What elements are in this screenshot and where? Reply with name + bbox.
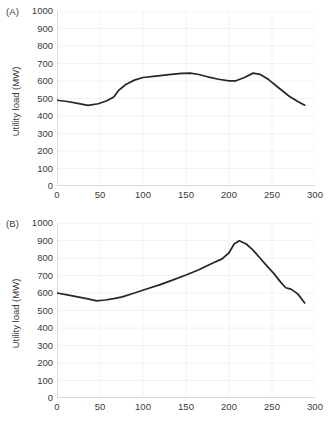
chart-panel-b: (B) Utility load (MW) 100090080070060050… — [0, 212, 333, 424]
gridlines-a — [57, 11, 315, 186]
y-tick-label: 400 — [37, 111, 53, 121]
y-tick-label: 200 — [37, 358, 53, 368]
data-line-b — [57, 241, 305, 303]
y-tick-label: 100 — [37, 376, 53, 386]
data-line-a — [57, 73, 305, 105]
y-axis-tick-labels-b: 10009008007006005004003002001000 — [18, 223, 53, 398]
x-tick-label: 150 — [178, 402, 194, 412]
x-tick-label: 100 — [135, 402, 151, 412]
figure-root: (A) Utility load (MW) 100090080070060050… — [0, 0, 333, 425]
plot-area-b — [57, 223, 315, 398]
x-tick-label: 0 — [54, 402, 59, 412]
plot-area-a — [57, 11, 315, 186]
plot-svg-a — [57, 11, 315, 186]
x-axis-tick-labels-a: 050100150200250300 — [57, 190, 315, 206]
x-tick-label: 50 — [95, 402, 106, 412]
plot-svg-b — [57, 223, 315, 398]
chart-panel-a: (A) Utility load (MW) 100090080070060050… — [0, 0, 333, 212]
y-tick-label: 600 — [37, 76, 53, 86]
x-tick-label: 200 — [221, 190, 237, 200]
y-tick-label: 300 — [37, 341, 53, 351]
x-tick-label: 250 — [264, 402, 280, 412]
y-tick-label: 700 — [37, 59, 53, 69]
y-tick-label: 900 — [37, 24, 53, 34]
x-tick-label: 300 — [307, 402, 323, 412]
y-tick-label: 0 — [48, 181, 53, 191]
x-tick-label: 200 — [221, 402, 237, 412]
x-tick-label: 0 — [54, 190, 59, 200]
x-tick-label: 150 — [178, 190, 194, 200]
x-axis-tick-labels-b: 050100150200250300 — [57, 402, 315, 418]
y-tick-label: 300 — [37, 129, 53, 139]
x-tick-label: 100 — [135, 190, 151, 200]
x-tick-label: 250 — [264, 190, 280, 200]
y-tick-label: 800 — [37, 253, 53, 263]
y-tick-label: 500 — [37, 306, 53, 316]
y-axis-tick-labels-a: 10009008007006005004003002001000 — [18, 11, 53, 186]
y-tick-label: 0 — [48, 393, 53, 403]
y-tick-label: 400 — [37, 323, 53, 333]
x-tick-label: 50 — [95, 190, 106, 200]
gridlines-b — [57, 223, 315, 398]
y-tick-label: 500 — [37, 94, 53, 104]
y-tick-label: 200 — [37, 146, 53, 156]
y-tick-label: 600 — [37, 288, 53, 298]
y-tick-label: 900 — [37, 236, 53, 246]
y-tick-label: 800 — [37, 41, 53, 51]
y-tick-label: 1000 — [32, 6, 53, 16]
x-tick-label: 300 — [307, 190, 323, 200]
y-tick-label: 100 — [37, 164, 53, 174]
y-tick-label: 700 — [37, 271, 53, 281]
y-tick-label: 1000 — [32, 218, 53, 228]
